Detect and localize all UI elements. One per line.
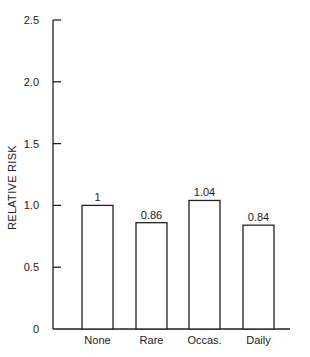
x-tick-label: Occas. [187,334,221,346]
y-tick-label: 1.0 [24,199,39,211]
y-tick-label: 1.5 [24,138,39,150]
y-axis-label: RELATIVE RISK [6,145,18,230]
bar-value-label: 0.84 [248,211,269,223]
bar-occas [189,200,220,329]
y-tick-label: 0 [33,323,39,335]
y-tick-label: 0.5 [24,261,39,273]
bar-daily [243,225,274,329]
x-tick-label: Rare [140,334,164,346]
bar-chart: 00.51.01.52.02.5 1None0.86Rare1.04Occas.… [0,0,310,357]
bars [82,200,274,329]
y-tick-label: 2.0 [24,76,39,88]
bar-rare [136,223,167,329]
x-tick-label: None [84,334,110,346]
y-tick-label: 2.5 [24,14,39,26]
bar-none [82,205,113,329]
bar-value-label: 0.86 [141,209,162,221]
bar-value-label: 1 [94,191,100,203]
bar-value-label: 1.04 [194,186,215,198]
x-tick-label: Daily [246,334,271,346]
